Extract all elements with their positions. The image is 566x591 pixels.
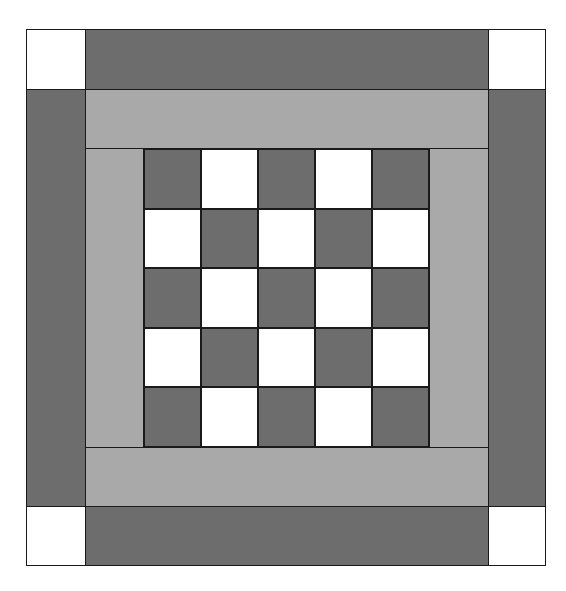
outer-strip-top [85,29,489,90]
inner-strip-bottom [85,447,489,507]
inner-strip-top [85,89,489,149]
checker-cell-dark [258,387,315,447]
checker-cell-dark [372,149,429,209]
checker-cell-dark [258,268,315,328]
checker-cell-dark [315,209,372,269]
checker-cell-white [315,149,372,209]
corner-square-top-right [488,29,546,90]
checker-cell-dark [258,149,315,209]
outer-strip-bottom [85,506,489,566]
checker-cell-white [144,209,201,269]
checker-cell-white [372,328,429,388]
checker-cell-dark [144,268,201,328]
corner-square-bottom-left [26,506,86,566]
checker-cell-white [258,328,315,388]
checker-cell-dark [201,209,258,269]
inner-strip-left [85,148,144,448]
checker-cell-white [258,209,315,269]
checker-cell-white [372,209,429,269]
checker-cell-white [201,149,258,209]
outer-strip-left [26,89,86,507]
checker-cell-white [144,328,201,388]
quilt-block [26,29,544,566]
checker-cell-dark [372,387,429,447]
checker-cell-dark [201,328,258,388]
outer-strip-right [488,89,546,507]
checker-cell-dark [144,149,201,209]
checker-cell-white [315,268,372,328]
corner-square-bottom-right [488,506,546,566]
checker-cell-dark [372,268,429,328]
checker-cell-white [315,387,372,447]
checker-cell-white [201,268,258,328]
checker-cell-dark [315,328,372,388]
checkerboard-center [143,148,430,448]
corner-square-top-left [26,29,86,90]
checker-cell-dark [144,387,201,447]
inner-strip-right [429,148,489,448]
checker-cell-white [201,387,258,447]
